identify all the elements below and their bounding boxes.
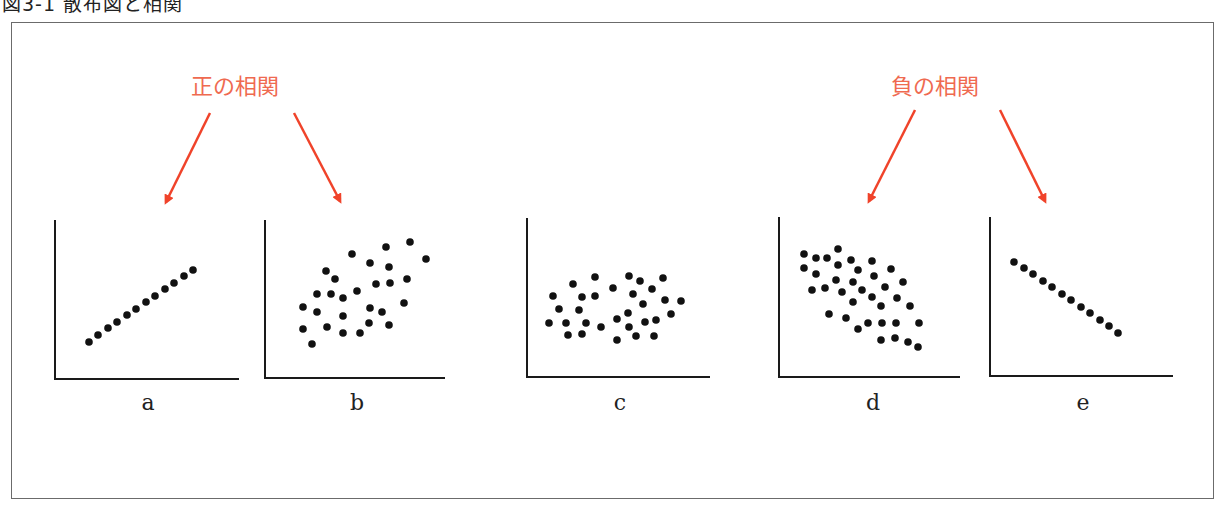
- data-point: [1096, 316, 1104, 324]
- data-point: [904, 338, 912, 346]
- data-point: [327, 290, 335, 298]
- data-point: [914, 343, 922, 351]
- data-point: [1114, 329, 1122, 337]
- data-point: [1105, 322, 1113, 330]
- data-point: [661, 296, 669, 304]
- data-point: [650, 332, 658, 340]
- panel-labels-layer: abcde: [141, 390, 1089, 415]
- data-point: [85, 338, 93, 346]
- data-point: [609, 284, 617, 292]
- negative-correlation-label: 負の相関: [891, 74, 979, 99]
- data-point: [821, 284, 829, 292]
- data-point: [308, 340, 316, 348]
- data-point: [854, 266, 862, 274]
- data-point: [104, 324, 112, 332]
- data-point: [847, 256, 855, 264]
- data-point: [1067, 296, 1075, 304]
- data-point: [578, 330, 586, 338]
- data-point: [915, 319, 923, 327]
- data-point: [891, 334, 899, 342]
- data-point: [858, 286, 866, 294]
- data-point: [648, 285, 656, 293]
- scatter-panel-d: [800, 245, 923, 351]
- data-point: [582, 319, 590, 327]
- data-point: [331, 275, 339, 283]
- data-point: [823, 254, 831, 262]
- data-point: [812, 254, 820, 262]
- data-point: [180, 272, 188, 280]
- data-point: [406, 238, 414, 246]
- data-point: [1029, 270, 1037, 278]
- data-point: [313, 308, 321, 316]
- axis-b: [265, 220, 445, 378]
- data-point: [624, 309, 632, 317]
- data-point: [313, 290, 321, 298]
- data-point: [641, 318, 649, 326]
- data-point: [113, 318, 121, 326]
- data-point: [812, 270, 820, 278]
- data-point: [365, 319, 373, 327]
- data-point: [403, 275, 411, 283]
- data-point: [877, 336, 885, 344]
- data-point: [825, 310, 833, 318]
- data-point: [382, 243, 390, 251]
- data-point: [299, 325, 307, 333]
- data-point: [562, 319, 570, 327]
- data-point: [385, 263, 393, 271]
- data-point: [597, 323, 605, 331]
- data-point: [564, 331, 572, 339]
- data-point: [353, 287, 361, 295]
- data-point: [667, 310, 675, 318]
- data-point: [339, 294, 347, 302]
- panel-label-c: c: [614, 390, 626, 415]
- axes-layer: [55, 217, 1173, 379]
- data-point: [366, 304, 374, 312]
- data-point: [1010, 258, 1018, 266]
- data-point: [639, 300, 647, 308]
- data-point: [94, 331, 102, 339]
- data-point: [575, 306, 583, 314]
- data-point: [659, 274, 667, 282]
- data-point: [1086, 309, 1094, 317]
- data-point: [636, 277, 644, 285]
- data-point: [132, 305, 140, 313]
- data-point: [1077, 303, 1085, 311]
- data-point: [386, 279, 394, 287]
- data-point: [877, 302, 885, 310]
- data-point: [832, 276, 840, 284]
- data-point: [189, 266, 197, 274]
- data-point: [878, 319, 886, 327]
- data-point: [868, 293, 876, 301]
- scatter-panel-a: [85, 266, 197, 346]
- data-point: [838, 288, 846, 296]
- data-point: [892, 319, 900, 327]
- data-point: [591, 273, 599, 281]
- data-point: [849, 298, 857, 306]
- scatter-figure: 正の相関 負の相関 abcde: [0, 0, 1229, 519]
- data-point: [613, 336, 621, 344]
- data-point: [161, 285, 169, 293]
- scatter-panel-b: [299, 238, 430, 348]
- data-point: [299, 303, 307, 311]
- data-point: [142, 298, 150, 306]
- data-point: [899, 278, 907, 286]
- data-point: [400, 299, 408, 307]
- data-point: [893, 294, 901, 302]
- data-point: [578, 293, 586, 301]
- data-point: [348, 250, 356, 258]
- data-point: [652, 316, 660, 324]
- data-point: [1020, 264, 1028, 272]
- panel-label-a: a: [141, 390, 154, 415]
- data-point: [632, 332, 640, 340]
- arrow-to-b-icon: [294, 113, 340, 201]
- data-point: [569, 280, 577, 288]
- arrow-to-d-icon: [869, 110, 915, 201]
- data-point: [356, 329, 364, 337]
- data-point: [834, 261, 842, 269]
- data-point: [555, 305, 563, 313]
- data-point: [549, 292, 557, 300]
- data-point: [629, 290, 637, 298]
- data-point: [906, 302, 914, 310]
- scatter-panel-e: [1010, 258, 1122, 337]
- data-point: [323, 323, 331, 331]
